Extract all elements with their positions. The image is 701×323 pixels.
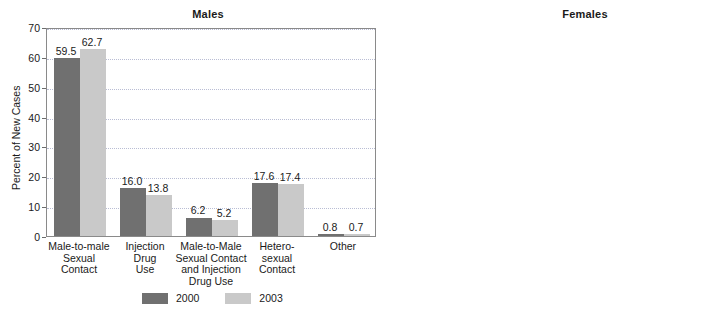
bar-2000 (120, 188, 146, 236)
legend-item-2003: 2003 (225, 292, 282, 304)
y-tick-label: 40 (14, 113, 40, 124)
bar-2000 (54, 58, 80, 236)
bar-2003 (146, 195, 172, 236)
y-tick-mark (42, 28, 46, 29)
chart-title-males: Males (18, 8, 398, 20)
bar-value-label: 62.7 (74, 37, 110, 48)
bar-value-label: 59.5 (48, 46, 84, 57)
chart-panel-females: Females Percent of New Cases 20002003 01… (400, 0, 701, 323)
chart-panel-males: Males Percent of New Cases 20002003 0102… (0, 0, 395, 323)
bar-value-label: 5.2 (206, 208, 242, 219)
bar-2003 (278, 184, 304, 236)
y-tick-mark (42, 177, 46, 178)
x-category-label-line: Contact (235, 264, 319, 276)
bar-2003 (80, 49, 106, 236)
y-tick-mark (42, 147, 46, 148)
y-tick-mark (42, 118, 46, 119)
legend-males: 20002003 (142, 292, 309, 304)
bar-value-label: 13.8 (140, 183, 176, 194)
x-category-label-line: Other (301, 241, 385, 253)
bar-value-label: 0.7 (338, 222, 374, 233)
y-tick-mark (42, 207, 46, 208)
bar-2003 (212, 220, 238, 236)
bar-value-label: 17.4 (272, 172, 308, 183)
y-tick-label: 10 (14, 202, 40, 213)
chart-title-females: Females (460, 8, 701, 20)
legend-label-2003: 2003 (259, 292, 282, 304)
y-tick-label: 20 (14, 172, 40, 183)
y-tick-mark (42, 58, 46, 59)
gridline (47, 29, 375, 30)
legend-swatch-2003 (225, 293, 251, 304)
y-tick-mark (42, 237, 46, 238)
y-tick-label: 60 (14, 53, 40, 64)
x-category-label-line: Drug Use (169, 276, 253, 288)
bar-2000 (318, 234, 344, 236)
legend-label-2000: 2000 (176, 292, 199, 304)
y-tick-label: 30 (14, 142, 40, 153)
bar-2000 (252, 183, 278, 236)
legend-swatch-2000 (142, 293, 168, 304)
legend-item-2000: 2000 (142, 292, 199, 304)
bar-2000 (186, 218, 212, 237)
y-tick-label: 50 (14, 83, 40, 94)
y-tick-mark (42, 88, 46, 89)
x-category-label: Other (301, 241, 385, 253)
y-tick-label: 70 (14, 23, 40, 34)
bar-2003 (344, 234, 370, 236)
